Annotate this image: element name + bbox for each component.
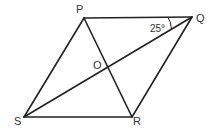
vertex-label-r: R [133, 115, 141, 127]
vertex-label-p: P [76, 3, 83, 15]
side-sp [24, 18, 84, 117]
vertex-label-q: Q [196, 12, 205, 24]
angle-arc-q [168, 17, 171, 29]
diagonal-qs [24, 17, 192, 117]
vertex-label-s: S [14, 115, 21, 127]
angle-label-25: 25° [150, 23, 165, 34]
intersection-label-o: O [93, 59, 102, 71]
side-pq [84, 17, 192, 18]
rhombus-diagram: P Q R S O 25° [0, 0, 214, 132]
